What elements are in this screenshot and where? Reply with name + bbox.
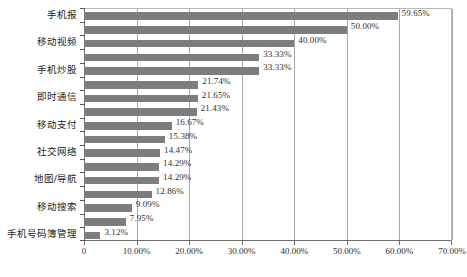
x-axis-tick-label: 70.00% [438,245,466,258]
bar [84,163,159,171]
bar [84,204,132,212]
bar-value-label: 59.65% [402,7,430,19]
bar-value-label: 7.95% [130,212,154,224]
y-axis-category-label: 移动视频 [0,36,77,48]
bar [84,26,347,34]
bar-value-label: 33.33% [263,61,291,73]
x-axis-tick-label: 50.00% [333,245,361,258]
y-axis-category-label: 移动支付 [0,119,77,131]
bar-value-label: 21.74% [202,75,230,87]
bar [84,108,197,116]
bar-value-label: 21.43% [201,102,229,114]
bar-value-label: 21.65% [202,89,230,101]
bar-value-label: 14.29% [163,171,191,183]
bar-value-label: 14.29% [163,157,191,169]
gridline [452,9,453,240]
bar [84,81,198,89]
bar-value-label: 40.00% [298,34,326,46]
bar [84,149,160,157]
y-axis-category-labels: 手机报移动视频手机炒股即时通信移动支付社交网络地图/导航移动搜索手机号码簿管理 [0,8,77,241]
x-axis-tick-label: 60.00% [386,245,414,258]
y-axis-category-label: 社交网络 [0,146,77,158]
bar-value-label: 14.47% [164,144,192,156]
y-axis-category-label: 移动搜索 [0,201,77,213]
y-axis-category-label: 手机炒股 [0,64,77,76]
bar [84,67,259,75]
bar-value-label: 50.00% [351,20,379,32]
bar [84,218,126,226]
y-axis-category-label: 地图/导航 [0,173,77,185]
x-axis-tick-label: 10.00% [123,245,151,258]
bar-value-label: 3.12% [104,226,128,238]
bar [84,177,159,185]
bar [84,232,100,240]
bar-value-label: 9.09% [136,198,160,210]
bar [84,136,165,144]
bar [84,40,294,48]
bar [84,12,398,20]
x-axis-tick-label: 40.00% [280,245,308,258]
y-axis-category-label: 手机报 [0,9,77,21]
x-axis-tick-label: 0 [82,245,87,258]
bar-value-label: 12.86% [156,185,184,197]
bar-value-label: 16.67% [176,116,204,128]
bars-layer: 59.65%50.00%40.00%33.33%33.33%21.74%21.6… [84,8,452,241]
y-axis-category-label: 手机号码簿管理 [0,228,77,240]
bar [84,122,172,130]
bar-value-label: 15.38% [169,130,197,142]
bar-chart: 手机报移动视频手机炒股即时通信移动支付社交网络地图/导航移动搜索手机号码簿管理 … [0,0,467,277]
y-axis-category-label: 即时通信 [0,91,77,103]
x-axis-tick-label: 30.00% [228,245,256,258]
bar-value-label: 33.33% [263,48,291,60]
bar [84,191,152,199]
bar [84,54,259,62]
bar [84,95,198,103]
x-axis-tick-labels: 010.00%20.00%30.00%40.00%50.00%60.00%70.… [0,245,467,259]
x-axis-tick-label: 20.00% [175,245,203,258]
